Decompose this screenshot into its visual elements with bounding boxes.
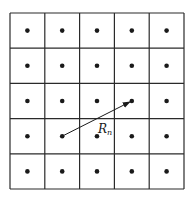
lattice-point — [164, 64, 169, 69]
lattice-point — [60, 99, 65, 104]
lattice-point — [25, 169, 30, 174]
lattice-points — [25, 28, 169, 173]
vector-label-main: R — [97, 122, 107, 136]
lattice-point — [95, 99, 100, 104]
lattice-point — [130, 28, 135, 33]
lattice-point — [164, 99, 169, 104]
lattice-point — [60, 28, 65, 33]
lattice-point — [130, 134, 135, 139]
lattice-point — [130, 99, 135, 104]
lattice-point — [95, 28, 100, 33]
lattice-diagram: Rn — [0, 0, 192, 198]
lattice-point — [130, 169, 135, 174]
lattice-point — [164, 169, 169, 174]
lattice-point — [164, 134, 169, 139]
vector-label: Rn — [97, 122, 112, 137]
lattice-point — [25, 99, 30, 104]
lattice-point — [25, 134, 30, 139]
lattice-point — [95, 64, 100, 69]
lattice-point — [164, 28, 169, 33]
lattice-point — [95, 169, 100, 174]
vector-label-subscript: n — [107, 128, 112, 137]
lattice-point — [60, 64, 65, 69]
lattice-point — [25, 64, 30, 69]
lattice-point — [60, 169, 65, 174]
lattice-point — [25, 28, 30, 33]
lattice-point — [130, 64, 135, 69]
